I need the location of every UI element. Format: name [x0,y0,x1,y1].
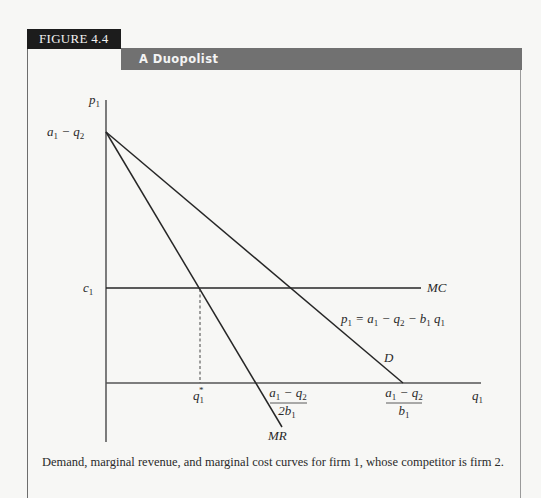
y-intercept-label: a1 − q2 [47,124,84,141]
x-axis-label: q1 [472,388,483,405]
svg-text:2b1: 2b1 [278,403,296,420]
demand-curve [106,132,403,383]
d-label: D [383,350,394,365]
figure-caption: Demand, marginal revenue, and marginal c… [42,455,504,470]
qstar-label: q1* [193,385,204,405]
d-intercept-label: a1 − q2 b1 [385,385,422,420]
svg-text:a1 − q2: a1 − q2 [385,385,422,402]
demand-equation: p1 = a1 − q2 − b1 q1 [340,311,445,328]
mr-label: MR [267,428,287,443]
y-axis-label: p1 [88,92,100,109]
mc-label: MC [426,280,447,295]
svg-text:b1: b1 [399,403,410,420]
svg-text:a1 − q2: a1 − q2 [269,385,306,402]
c1-label: c1 [83,280,93,297]
